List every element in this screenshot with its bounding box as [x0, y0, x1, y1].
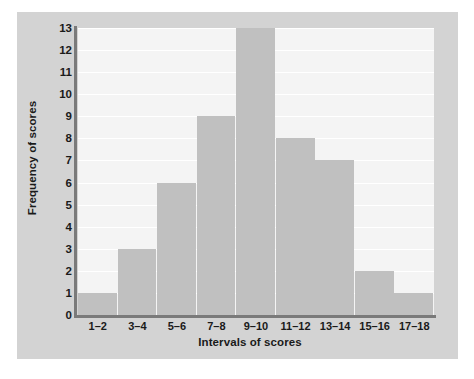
- y-tick-label: 2: [50, 265, 72, 277]
- x-tick-label: 11–12: [276, 320, 316, 332]
- y-axis-line: [74, 26, 77, 317]
- x-tick-label: 3–4: [118, 320, 158, 332]
- x-tick-label: 9–10: [236, 320, 276, 332]
- y-tick-label: 6: [50, 177, 72, 189]
- bar: [276, 138, 315, 315]
- histogram-figure: Frequency of scores Intervals of scores …: [0, 0, 474, 379]
- y-tick-label: 10: [50, 88, 72, 100]
- x-tick-label: 15–16: [355, 320, 395, 332]
- plot-area: [78, 28, 434, 315]
- y-tick-label: 8: [50, 132, 72, 144]
- bar: [118, 249, 157, 315]
- y-axis-tick-labels: 012345678910111213: [46, 0, 72, 379]
- y-tick-label: 3: [50, 243, 72, 255]
- y-axis-title: Frequency of scores: [26, 48, 38, 268]
- bar: [78, 293, 117, 315]
- x-axis-title: Intervals of scores: [60, 336, 440, 348]
- y-tick-label: 12: [50, 44, 72, 56]
- x-tick-label: 17–18: [394, 320, 434, 332]
- bar: [315, 160, 354, 315]
- y-tick-label: 7: [50, 154, 72, 166]
- y-tick-label: 4: [50, 221, 72, 233]
- bar: [355, 271, 394, 315]
- x-tick-label: 7–8: [197, 320, 237, 332]
- y-tick-label: 5: [50, 199, 72, 211]
- bar: [197, 116, 236, 315]
- x-axis-line: [74, 315, 436, 318]
- y-tick-label: 11: [50, 66, 72, 78]
- x-tick-label: 13–14: [315, 320, 355, 332]
- x-tick-label: 1–2: [78, 320, 118, 332]
- bar: [157, 183, 196, 315]
- y-tick-label: 9: [50, 110, 72, 122]
- bar: [394, 293, 433, 315]
- y-tick-label: 1: [50, 287, 72, 299]
- bar: [236, 28, 275, 315]
- y-tick-label: 13: [50, 22, 72, 34]
- x-tick-label: 5–6: [157, 320, 197, 332]
- y-tick-label: 0: [50, 309, 72, 321]
